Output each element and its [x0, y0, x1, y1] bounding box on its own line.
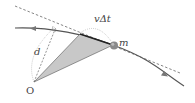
label-origin: O [26, 85, 34, 96]
label-mass: m [119, 37, 128, 48]
label-displacement: vΔt [94, 13, 112, 24]
mass-ball-icon [110, 42, 118, 50]
ball-highlight [111, 43, 114, 46]
diagram-canvas: vΔt m d O [0, 0, 195, 103]
label-distance: d [34, 46, 40, 57]
arrow-left-icon [30, 26, 36, 31]
